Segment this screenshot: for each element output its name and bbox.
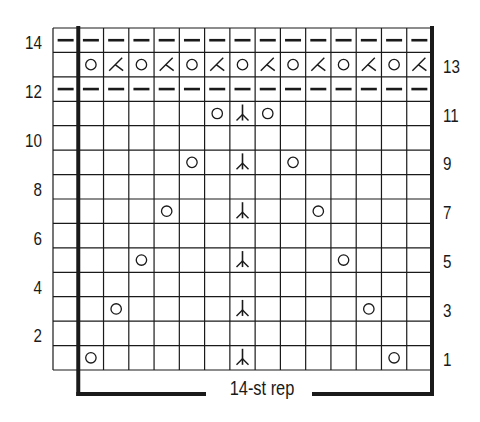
yarn-over-circle-icon <box>288 157 298 167</box>
yarn-over-circle-icon <box>136 59 146 69</box>
row-label-left: 6 <box>15 229 42 248</box>
central-double-decrease-icon <box>237 300 249 316</box>
yarn-over-circle-icon <box>136 255 146 265</box>
yarn-over-circle-icon <box>389 353 399 363</box>
knitting-chart <box>0 0 480 422</box>
grid-lines <box>53 28 432 370</box>
k2tog-icon <box>210 58 224 71</box>
central-double-decrease-icon <box>237 105 249 121</box>
yarn-over-circle-icon <box>389 59 399 69</box>
row-label-right: 3 <box>443 301 451 320</box>
yarn-over-circle-icon <box>86 353 96 363</box>
row-label-left: 2 <box>15 326 42 345</box>
k2tog-icon <box>109 58 123 71</box>
row-label-right: 5 <box>443 252 451 271</box>
yarn-over-circle-icon <box>86 59 96 69</box>
yarn-over-circle-icon <box>338 59 348 69</box>
repeat-label: 14-st rep <box>224 378 299 398</box>
k2tog-icon <box>160 58 174 71</box>
row-label-left: 14 <box>15 33 42 52</box>
k2tog-icon <box>362 58 376 71</box>
stitch-symbols <box>58 40 428 365</box>
row-label-right: 13 <box>443 57 460 76</box>
yarn-over-circle-icon <box>364 304 374 314</box>
central-double-decrease-icon <box>237 349 249 365</box>
yarn-over-circle-icon <box>338 255 348 265</box>
row-label-left: 4 <box>15 278 42 297</box>
row-label-right: 7 <box>443 203 451 222</box>
row-label-right: 11 <box>443 106 459 125</box>
row-label-right: 9 <box>443 154 451 173</box>
row-label-right: 1 <box>443 350 451 369</box>
yarn-over-circle-icon <box>187 157 197 167</box>
yarn-over-circle-icon <box>212 108 222 118</box>
yarn-over-circle-icon <box>162 206 172 216</box>
row-label-left: 8 <box>15 180 42 199</box>
row-label-left: 10 <box>15 131 42 150</box>
yarn-over-circle-icon <box>237 59 247 69</box>
yarn-over-circle-icon <box>187 59 197 69</box>
yarn-over-circle-icon <box>111 304 121 314</box>
yarn-over-circle-icon <box>313 206 323 216</box>
central-double-decrease-icon <box>237 251 249 267</box>
yarn-over-circle-icon <box>288 59 298 69</box>
yarn-over-circle-icon <box>263 108 273 118</box>
k2tog-icon <box>311 58 325 71</box>
central-double-decrease-icon <box>237 153 249 169</box>
k2tog-icon <box>261 58 275 71</box>
row-label-left: 12 <box>15 82 42 101</box>
k2tog-icon <box>412 58 426 71</box>
central-double-decrease-icon <box>237 202 249 218</box>
